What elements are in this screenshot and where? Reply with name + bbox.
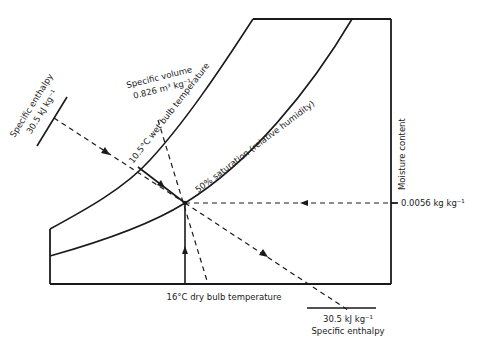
enthalpy-bottom-title: Specific enthalpy bbox=[311, 326, 384, 336]
specific-volume-line bbox=[158, 120, 208, 284]
enthalpy-arrow-top-icon bbox=[101, 147, 110, 155]
moisture-content-value: 0.0056 kg kg⁻¹ bbox=[401, 198, 465, 208]
saturation-label: 50% saturation (relative humidity) bbox=[193, 98, 316, 194]
enthalpy-bottom-value: 30.5 kJ kg⁻¹ bbox=[323, 314, 373, 324]
moisture-content-axis-label: Moisture content bbox=[397, 118, 407, 190]
psychrometric-diagram: Specific enthalpy 30.5 kJ kg⁻¹ Specific … bbox=[0, 0, 479, 347]
dry-bulb-arrow-icon bbox=[182, 246, 188, 254]
saturation-curve bbox=[50, 19, 253, 229]
enthalpy-arrow-bottom-icon bbox=[259, 249, 268, 257]
dry-bulb-label: 16°C dry bulb temperature bbox=[167, 292, 282, 302]
enthalpy-label-top: Specific enthalpy 30.5 kJ kg⁻¹ bbox=[8, 72, 65, 146]
enthalpy-line-top bbox=[54, 118, 185, 203]
fifty-percent-saturation-curve bbox=[50, 19, 352, 256]
state-point bbox=[183, 201, 187, 205]
chart-frame bbox=[50, 19, 391, 284]
moisture-arrow-icon bbox=[300, 200, 308, 206]
